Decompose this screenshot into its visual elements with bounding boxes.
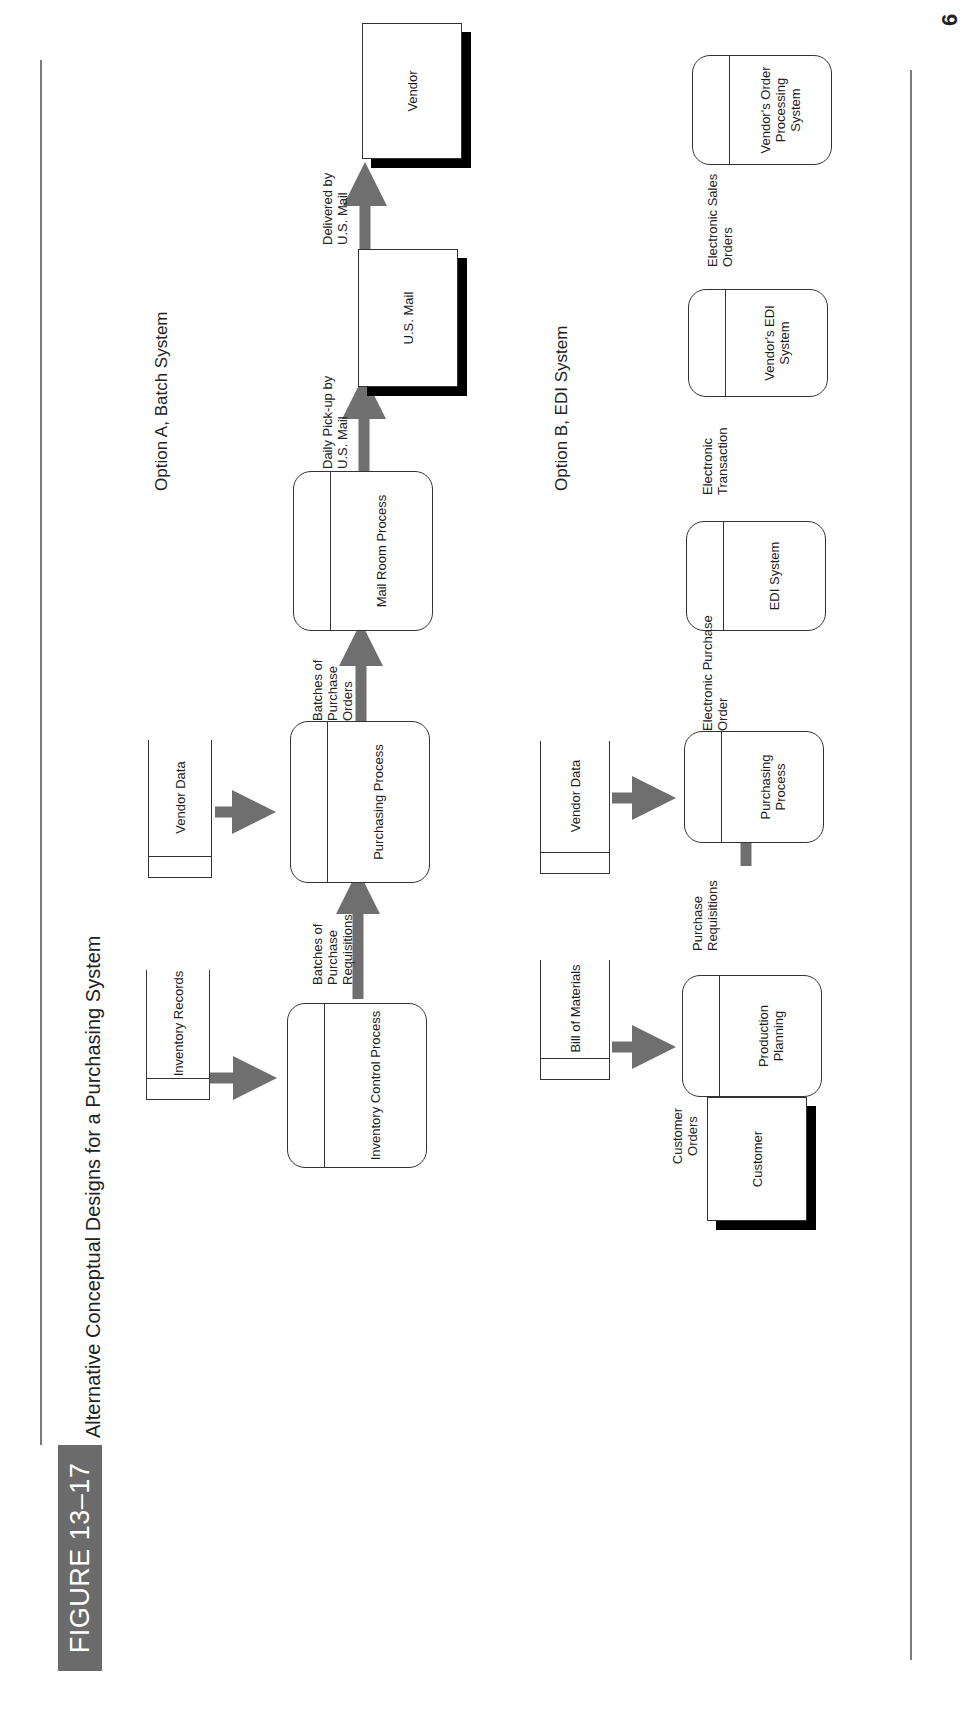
- figure-canvas: 6 FIGURE 13–17 Alternative Conceptual De…: [0, 0, 972, 1731]
- process-mail-room: Mail Room Process: [293, 471, 433, 631]
- process-header: [291, 722, 328, 882]
- process-production-planning: Production Planning: [682, 975, 822, 1097]
- process-label: EDI System: [724, 522, 825, 630]
- flow-label-customer-orders: Customer Orders: [670, 1101, 700, 1171]
- entity-us-mail: U.S. Mail: [358, 249, 458, 387]
- process-label: Production Planning: [720, 976, 821, 1096]
- flow-label-purchase-requisitions: Purchase Requisitions: [690, 861, 720, 951]
- flow-label-electronic-purchase-order: Electronic Purchase Order: [700, 591, 730, 731]
- process-label: Inventory Control Process: [325, 1004, 426, 1167]
- process-label: Purchasing Process: [328, 722, 429, 882]
- process-label: Mail Room Process: [331, 472, 432, 630]
- data-store-label: Vendor Data: [541, 741, 609, 851]
- process-header: [685, 732, 722, 842]
- entity-customer: Customer: [707, 1097, 807, 1221]
- data-store-label: Vendor Data: [149, 740, 211, 855]
- process-header: [683, 976, 720, 1096]
- flow-label-daily-pickup: Daily Pick-up by U.S. Mail: [320, 359, 350, 469]
- process-header: [288, 1004, 325, 1167]
- process-header: [689, 290, 726, 396]
- data-store-id-cell: [149, 856, 211, 877]
- process-purchasing-a: Purchasing Process: [290, 721, 430, 883]
- data-store-vendor-data-b: Vendor Data: [540, 741, 610, 874]
- flow-label-delivered-by-mail: Delivered by U.S. Mail: [320, 155, 350, 245]
- process-inventory-control: Inventory Control Process: [287, 1003, 427, 1168]
- data-store-id-cell: [541, 1058, 609, 1079]
- process-label: Vendor's EDI System: [726, 290, 827, 396]
- data-store-vendor-data-a: Vendor Data: [148, 740, 212, 878]
- data-store-label: Inventory Records: [147, 970, 209, 1077]
- data-store-label: Bill of Materials: [541, 960, 609, 1057]
- data-store-id-cell: [147, 1078, 209, 1099]
- process-header: [294, 472, 331, 630]
- process-purchasing-b: Purchasing Process: [684, 731, 824, 843]
- data-store-inventory-records: Inventory Records: [146, 970, 210, 1100]
- process-vendor-edi-system: Vendor's EDI System: [688, 289, 828, 397]
- flow-label-batches-requisitions: Batches of Purchase Requisitions: [310, 885, 355, 985]
- flow-label-batches-orders: Batches of Purchase Orders: [310, 631, 355, 721]
- process-label: Purchasing Process: [722, 732, 823, 842]
- process-header: [693, 56, 730, 164]
- entity-vendor: Vendor: [362, 23, 462, 159]
- flow-label-electronic-sales-orders: Electronic Sales Orders: [705, 167, 735, 267]
- flow-label-electronic-transaction: Electronic Transaction: [700, 395, 730, 495]
- process-label: Vendor's Order Processing System: [730, 56, 831, 164]
- data-store-bill-of-materials: Bill of Materials: [540, 960, 610, 1080]
- data-store-id-cell: [541, 852, 609, 873]
- process-vendor-order-processing: Vendor's Order Processing System: [692, 55, 832, 165]
- flow-arrows: [0, 0, 972, 1731]
